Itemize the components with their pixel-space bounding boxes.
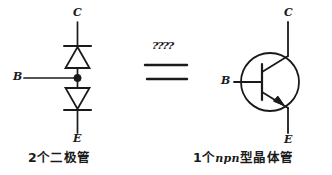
circuit-diagram-svg [0, 0, 332, 175]
right-caption-prefix: 1个 [193, 150, 215, 165]
left-collector-label: C [73, 7, 82, 18]
right-base-label: B [221, 75, 230, 86]
left-caption: 2个二极管 [28, 152, 90, 165]
right-circuit-npn-transistor [234, 22, 299, 133]
left-base-label: B [13, 71, 22, 82]
equivalence-symbol [145, 65, 187, 79]
right-caption-latin: npn [215, 152, 240, 165]
left-circuit-two-diodes [24, 22, 91, 133]
right-collector-label: C [284, 7, 293, 18]
right-caption: 1个npn型晶体管 [193, 152, 293, 165]
left-emitter-label: E [73, 133, 81, 144]
right-emitter-label: E [284, 134, 292, 145]
lower-diode-triangle [66, 88, 90, 109]
transistor-emitter-arrowhead [274, 96, 285, 106]
right-caption-suffix: 型晶体管 [240, 150, 293, 165]
upper-diode-triangle [66, 47, 90, 68]
equivalence-question-marks: ???? [152, 42, 173, 51]
figure-canvas: C B E C B E ???? 2个二极管 1个npn型晶体管 [0, 0, 332, 175]
transistor-collector-lead [262, 56, 288, 72]
